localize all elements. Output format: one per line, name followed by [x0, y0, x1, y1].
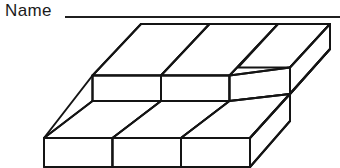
worksheet-page: Name — [0, 0, 340, 168]
cube-block-svg — [0, 18, 340, 168]
front-face-col3 — [181, 138, 250, 167]
front-face-col1 — [44, 138, 113, 167]
step-front-face-back-col1 — [93, 76, 162, 102]
cube-block-figure — [0, 18, 340, 168]
step-front-face-back-col2 — [161, 76, 230, 102]
front-face-col2 — [113, 138, 182, 167]
